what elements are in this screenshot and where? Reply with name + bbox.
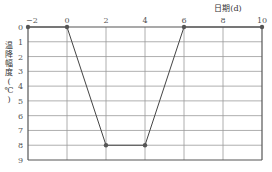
y-tick-label: 2 xyxy=(18,53,23,62)
y-tick-label: 4 xyxy=(18,82,23,91)
x-tick-label: 8 xyxy=(220,16,225,25)
data-point-marker xyxy=(143,143,147,147)
svg-text:降: 降 xyxy=(5,49,13,59)
data-point-marker xyxy=(65,25,69,29)
data-point-marker xyxy=(260,25,264,29)
data-point-marker xyxy=(182,25,186,29)
y-tick-label: 9 xyxy=(18,156,23,165)
y-tick-label: 0 xyxy=(18,23,23,32)
x-axis-label: 日期(d) xyxy=(214,4,241,13)
x-tick-label: 2 xyxy=(103,16,108,25)
y-axis-ticks: 0123456789 xyxy=(18,23,23,165)
y-tick-label: 7 xyxy=(18,126,23,135)
x-tick-label: 4 xyxy=(142,16,147,25)
y-tick-label: 6 xyxy=(18,112,23,121)
x-tick-label: 6 xyxy=(181,16,186,25)
svg-text:度: 度 xyxy=(5,67,13,77)
svg-text:℃: ℃ xyxy=(5,86,14,95)
y-tick-label: 1 xyxy=(18,38,23,47)
svg-text:): ) xyxy=(7,95,10,104)
x-tick-label: 10 xyxy=(257,16,267,25)
svg-text:(: ( xyxy=(7,77,10,86)
y-axis-label: 温降幅度(℃) xyxy=(5,41,14,104)
y-tick-label: 3 xyxy=(18,67,23,76)
y-tick-label: 8 xyxy=(18,141,23,150)
y-tick-label: 5 xyxy=(18,97,23,106)
x-axis-ticks: −20246810 xyxy=(26,16,267,25)
x-tick-label: 0 xyxy=(64,16,69,25)
line-chart: −20246810 0123456789 日期(d) 温降幅度(℃) xyxy=(0,0,272,172)
data-point-marker xyxy=(26,25,30,29)
grid xyxy=(28,27,262,160)
svg-text:幅: 幅 xyxy=(5,58,13,68)
svg-text:温: 温 xyxy=(5,41,13,50)
x-tick-label: −2 xyxy=(26,16,38,25)
data-point-marker xyxy=(104,143,108,147)
